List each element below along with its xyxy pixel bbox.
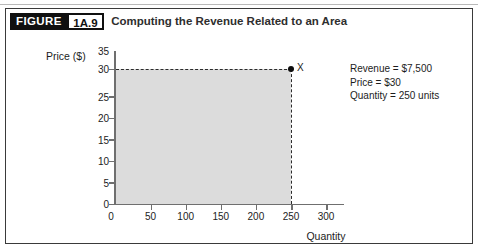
- chart-plot-area: 0 5 10 15 20 25 30 35 Price ($) 0 50 100…: [6, 9, 474, 245]
- x-tick-label-250: 250: [271, 212, 311, 222]
- x-tick-mark-250: [291, 204, 293, 210]
- x-axis-line: [114, 204, 344, 206]
- quantity-dashed-line: [291, 69, 292, 204]
- data-point-label-x: X: [297, 63, 304, 73]
- y-tick-mark-5: [109, 182, 115, 184]
- y-tick-label-15: 15: [65, 136, 109, 146]
- y-tick-label-30: 30: [65, 65, 109, 75]
- data-point-marker-x: [288, 66, 295, 73]
- annotation-revenue: Revenue = $7,500: [350, 62, 439, 76]
- y-tick-mark-0: [109, 204, 115, 206]
- y-tick-mark-15: [109, 139, 115, 141]
- x-tick-label-200: 200: [236, 212, 276, 222]
- x-tick-label-150: 150: [201, 212, 241, 222]
- page-top-rule: [0, 4, 478, 5]
- y-tick-mark-20: [109, 118, 115, 120]
- x-tick-mark-50: [151, 204, 153, 210]
- y-axis-title: Price ($): [46, 51, 86, 61]
- y-tick-label-10: 10: [65, 157, 109, 167]
- figure-frame: FIGURE 1A.9 Computing the Revenue Relate…: [5, 8, 473, 244]
- annotation-quantity: Quantity = 250 units: [350, 89, 439, 103]
- x-tick-mark-100: [186, 204, 188, 210]
- price-dashed-line: [116, 69, 292, 70]
- y-tick-mark-10: [109, 161, 115, 163]
- y-tick-label-20: 20: [65, 114, 109, 124]
- x-tick-label-0: 0: [91, 212, 131, 222]
- x-tick-label-50: 50: [131, 212, 171, 222]
- x-axis-title: Quantity: [291, 231, 361, 242]
- x-tick-label-300: 300: [306, 212, 346, 222]
- y-tick-mark-30: [109, 69, 115, 71]
- x-tick-mark-200: [256, 204, 258, 210]
- y-tick-label-25: 25: [65, 93, 109, 103]
- x-tick-mark-150: [221, 204, 223, 210]
- x-tick-label-100: 100: [166, 212, 206, 222]
- annotation-block: Revenue = $7,500 Price = $30 Quantity = …: [350, 62, 439, 103]
- annotation-price: Price = $30: [350, 76, 439, 90]
- y-tick-label-5: 5: [65, 179, 109, 189]
- x-tick-mark-300: [326, 204, 328, 210]
- y-tick-mark-25: [109, 96, 115, 98]
- revenue-shaded-rectangle: [116, 69, 292, 204]
- y-tick-label-0: 0: [65, 200, 109, 210]
